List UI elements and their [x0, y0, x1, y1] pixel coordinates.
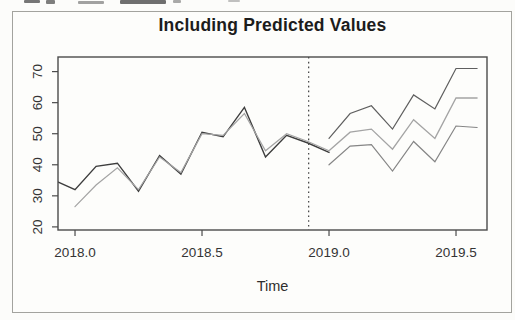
y-tick-label: 50 — [31, 126, 46, 141]
y-tick-label: 70 — [31, 64, 46, 79]
x-axis-label: Time — [58, 278, 487, 294]
y-tick-label: 40 — [31, 157, 46, 172]
series-line-forecast-mean — [329, 98, 477, 151]
series-line-fitted — [75, 114, 329, 207]
y-tick-label: 20 — [31, 219, 46, 234]
x-tick-label: 2019.0 — [308, 245, 349, 260]
series-line-observed — [54, 107, 329, 191]
y-tick-label: 60 — [31, 95, 46, 110]
x-tick-label: 2018.0 — [54, 245, 95, 260]
plot-box — [58, 57, 487, 230]
series-line-forecast-lower — [329, 126, 477, 171]
x-tick-label: 2019.5 — [435, 245, 476, 260]
timeseries-chart: 2018.02018.52019.02019.5203040506070 — [0, 0, 515, 320]
y-tick-label: 30 — [31, 188, 46, 203]
x-tick-label: 2018.5 — [181, 245, 222, 260]
screenshot-root: Including Predicted Values 2018.02018.52… — [0, 0, 515, 320]
series-group — [54, 69, 477, 207]
